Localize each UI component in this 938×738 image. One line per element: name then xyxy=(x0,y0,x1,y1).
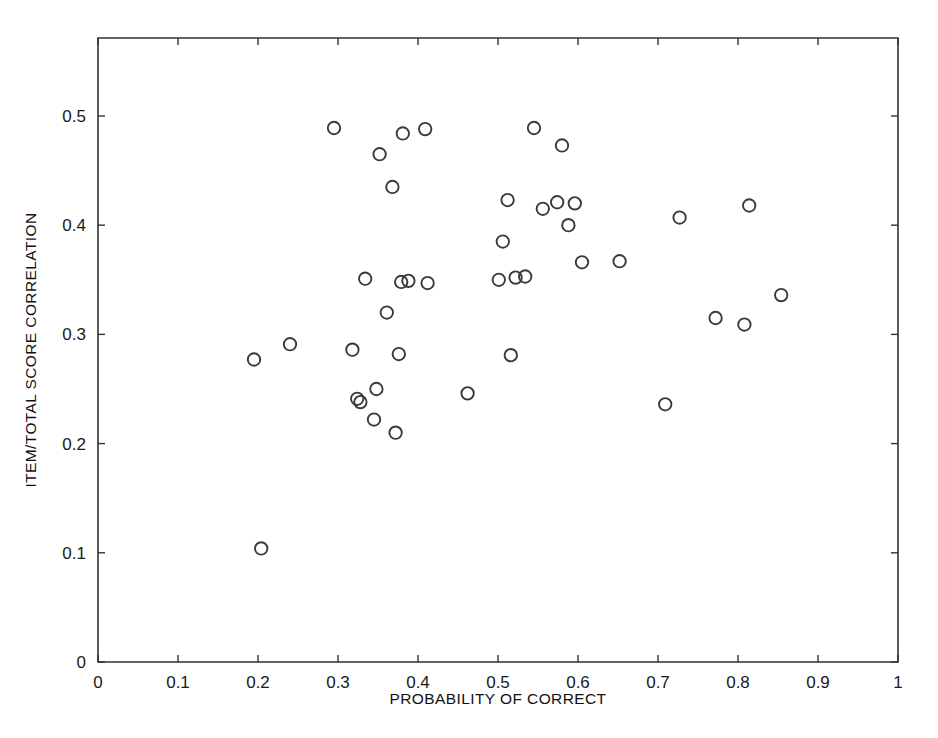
x-tick-label: 0.1 xyxy=(166,673,190,692)
y-tick-label: 0.4 xyxy=(62,216,86,235)
x-tick-label: 0 xyxy=(93,673,102,692)
x-tick-label: 1 xyxy=(893,673,902,692)
x-tick-label: 0.8 xyxy=(726,673,750,692)
x-axis-title: PROBABILITY OF CORRECT xyxy=(390,690,607,707)
y-tick-label: 0.2 xyxy=(62,435,86,454)
x-tick-label: 0.7 xyxy=(646,673,670,692)
scatter-plot-figure: 00.10.20.30.40.50.60.70.80.91 00.10.20.3… xyxy=(0,0,938,738)
x-tick-label: 0.2 xyxy=(246,673,270,692)
plot-background xyxy=(0,0,938,738)
y-tick-label: 0.3 xyxy=(62,325,86,344)
x-tick-label: 0.9 xyxy=(806,673,830,692)
y-tick-label: 0.1 xyxy=(62,544,86,563)
y-tick-label: 0 xyxy=(77,653,86,672)
plot-canvas: 00.10.20.30.40.50.60.70.80.91 00.10.20.3… xyxy=(0,0,938,738)
y-tick-label: 0.5 xyxy=(62,107,86,126)
y-axis-title: ITEM/TOTAL SCORE CORRELATION xyxy=(22,212,39,487)
x-tick-label: 0.3 xyxy=(326,673,350,692)
